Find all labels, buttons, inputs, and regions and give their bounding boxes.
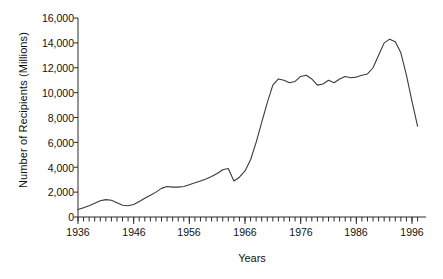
axis-lines <box>78 18 426 217</box>
y-axis-ticks <box>74 18 78 217</box>
chart-plot-svg <box>0 0 443 279</box>
data-series-line <box>78 39 418 209</box>
x-axis-minor-ticks <box>78 217 418 222</box>
chart-container: Number of Recipients (Millions) 0 2,000 … <box>0 0 443 279</box>
